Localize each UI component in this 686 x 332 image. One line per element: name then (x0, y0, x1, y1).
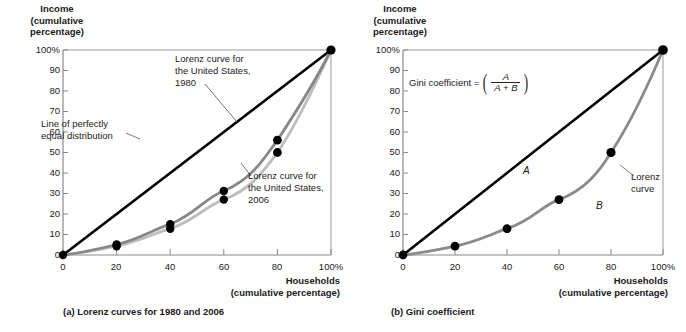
panel-b-caption: (b) Gini coefficient (391, 306, 474, 317)
panel-b-y-tick-80: 80 (352, 85, 400, 96)
panel-b-x-tick-60: 60 (544, 261, 574, 272)
gini-formula-label: Gini coefficient = (409, 77, 479, 88)
panel-b-y-tick-40: 40 (352, 167, 400, 178)
x-title-line1: Households (488, 275, 668, 287)
panel-a-y-tick-40: 40 (12, 167, 60, 178)
annotation-lorenz-2006: Lorenz curve for the United States, 2006 (248, 170, 340, 205)
panel-a-y-tick-0: 0 (12, 249, 60, 260)
gini-numerator: A (500, 72, 512, 82)
panel-b-y-tick-10: 10 (352, 228, 400, 239)
panel-a-y-tick-70: 70 (12, 105, 60, 116)
close-paren: ) (524, 77, 528, 88)
panel-b-y-tick-100: 100% (352, 44, 400, 55)
panel-b-x-tick-0: 0 (388, 261, 418, 272)
panel-a-caption: (a) Lorenz curves for 1980 and 2006 (63, 306, 224, 317)
panel-a-y-tick-30: 30 (12, 187, 60, 198)
panel-b-x-tick-40: 40 (492, 261, 522, 272)
y-tick-marks (63, 50, 68, 235)
panel-b-x-tick-80: 80 (596, 261, 626, 272)
panel-a-x-tick-60: 60 (209, 261, 239, 272)
panel-a-y-tick-20: 20 (12, 208, 60, 219)
open-paren: ( (483, 77, 487, 88)
annotation-equal-distribution: Line of perfectly equal distribution (41, 118, 131, 142)
panel-b-x-axis-title: Households (cumulative percentage) (488, 275, 668, 298)
panel-b-y-tick-20: 20 (352, 208, 400, 219)
panel-a-x-tick-20: 20 (101, 261, 131, 272)
gini-coefficient-formula: Gini coefficient = ( A A + B ) (409, 72, 530, 93)
x-title-line1: Households (160, 275, 340, 287)
area-label-a: A (523, 165, 530, 176)
panel-b-x-tick-100: 100% (644, 261, 682, 272)
panel-a-x-axis-title: Households (cumulative percentage) (160, 275, 340, 298)
panel-a-x-tick-40: 40 (155, 261, 185, 272)
panel-a-y-tick-90: 90 (12, 64, 60, 75)
panel-b-y-tick-50: 50 (352, 146, 400, 157)
panel-b-x-tick-20: 20 (440, 261, 470, 272)
gini-denominator: A + B (491, 83, 520, 93)
panel-b-y-tick-60: 60 (352, 126, 400, 137)
gini-fraction: A A + B (491, 72, 520, 93)
panel-a-y-tick-10: 10 (12, 228, 60, 239)
panel-b-gini-coefficient: Income (cumulative percentage) (343, 0, 686, 332)
panel-a-y-tick-80: 80 (12, 85, 60, 96)
panel-b-y-tick-70: 70 (352, 105, 400, 116)
panel-b-y-tick-0: 0 (352, 249, 400, 260)
figure-lorenz-gini: Income (cumulative percentage) (0, 0, 686, 332)
y-tick-marks (403, 50, 408, 235)
annotation-lorenz-1980: Lorenz curve for the United States, 1980 (175, 53, 270, 88)
x-title-line2: (cumulative percentage) (488, 287, 668, 299)
panel-a-x-tick-80: 80 (262, 261, 292, 272)
panel-a-lorenz-curves: Income (cumulative percentage) (0, 0, 343, 332)
leader-line-1980 (205, 84, 237, 122)
panel-a-y-tick-50: 50 (12, 146, 60, 157)
x-title-line2: (cumulative percentage) (160, 287, 340, 299)
area-label-b: B (596, 200, 603, 211)
annotation-lorenz-curve: Lorenz curve (631, 171, 681, 195)
panel-a-x-tick-0: 0 (48, 261, 78, 272)
panel-b-y-tick-30: 30 (352, 187, 400, 198)
panel-a-y-tick-100: 100% (12, 44, 60, 55)
panel-b-y-tick-90: 90 (352, 64, 400, 75)
